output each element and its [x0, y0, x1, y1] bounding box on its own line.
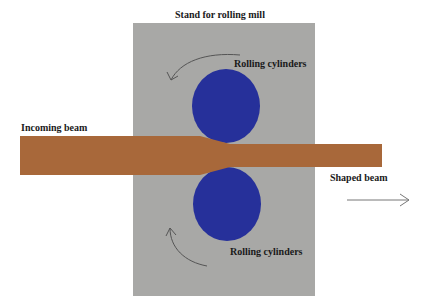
bottom-cylinders-label: Rolling cylinders — [230, 246, 303, 257]
bottom-rolling-cylinder — [193, 167, 261, 241]
incoming-beam-label: Incoming beam — [21, 122, 87, 133]
beam — [20, 136, 382, 175]
shaped-beam-label: Shaped beam — [330, 172, 388, 183]
top-cylinders-label: Rolling cylinders — [234, 58, 307, 69]
stand-title: Stand for rolling mill — [175, 9, 265, 20]
top-rolling-cylinder — [192, 69, 260, 143]
rolling-mill-diagram — [0, 0, 430, 307]
